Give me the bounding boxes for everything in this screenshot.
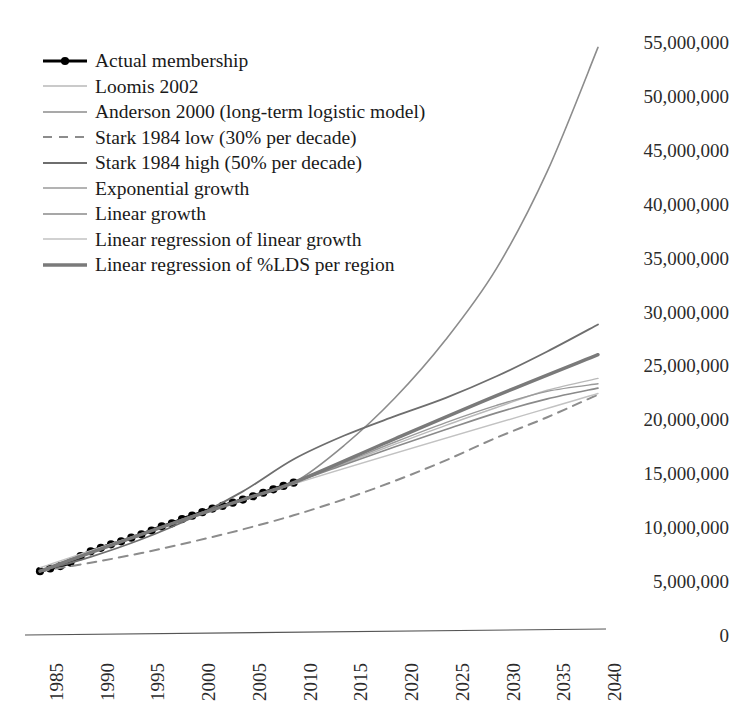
legend-item-label: Actual membership (95, 51, 248, 71)
legend-swatch-icon (42, 78, 88, 94)
y-axis-tick-label: 50,000,000 (644, 87, 730, 106)
x-axis-line (25, 629, 606, 635)
legend-item[interactable]: Stark 1984 low (30% per decade) (42, 125, 442, 151)
x-axis-tick-label: 1990 (98, 663, 117, 701)
y-axis-tick-label: 35,000,000 (644, 249, 730, 268)
x-axis-tick-label: 2005 (250, 663, 269, 701)
legend-item-label: Linear growth (95, 204, 206, 224)
y-axis-tick-label: 55,000,000 (644, 33, 730, 52)
legend-item-label: Loomis 2002 (95, 77, 198, 97)
legend-item-label: Stark 1984 low (30% per decade) (95, 128, 357, 148)
legend-item-label: Exponential growth (95, 179, 249, 199)
legend-item[interactable]: Stark 1984 high (50% per decade) (42, 150, 442, 176)
legend-swatch-icon (42, 104, 88, 120)
x-axis-tick-label: 1985 (47, 663, 66, 701)
legend-item[interactable]: Linear regression of %LDS per region (42, 252, 442, 278)
y-axis-tick-label: 10,000,000 (644, 518, 730, 537)
legend-item[interactable]: Actual membership (42, 48, 442, 74)
x-axis-tick-label: 2000 (199, 663, 218, 701)
legend-item-label: Linear regression of %LDS per region (95, 255, 394, 275)
y-axis-tick-label: 25,000,000 (644, 356, 730, 375)
x-axis-tick-label: 2025 (453, 663, 472, 701)
y-axis-tick-label: 0 (720, 626, 730, 645)
y-axis-tick-label: 15,000,000 (644, 464, 730, 483)
x-axis-tick-label: 2035 (554, 663, 573, 701)
y-axis-tick-label: 20,000,000 (644, 410, 730, 429)
y-axis-tick-label: 30,000,000 (644, 303, 730, 322)
legend-swatch-icon (42, 180, 88, 196)
legend-swatch-icon (42, 206, 88, 222)
chart-legend: Actual membershipLoomis 2002Anderson 200… (42, 48, 442, 278)
legend-swatch-icon (42, 129, 88, 145)
x-axis-tick-label: 2030 (504, 663, 523, 701)
x-axis-tick-label: 2020 (402, 663, 421, 701)
legend-swatch-icon (42, 53, 88, 69)
x-axis-tick-label: 1995 (148, 663, 167, 701)
series-line (40, 395, 598, 572)
legend-item[interactable]: Linear growth (42, 201, 442, 227)
legend-swatch-icon (42, 155, 88, 171)
legend-item[interactable]: Anderson 2000 (long-term logistic model) (42, 99, 442, 125)
y-axis-tick-label: 40,000,000 (644, 195, 730, 214)
y-axis-tick-label: 5,000,000 (653, 572, 729, 591)
legend-item[interactable]: Linear regression of linear growth (42, 227, 442, 253)
x-axis-tick-label: 2040 (605, 663, 624, 701)
legend-item[interactable]: Loomis 2002 (42, 74, 442, 100)
x-axis-tick-label: 2015 (351, 663, 370, 701)
legend-swatch-icon (42, 231, 88, 247)
x-axis-tick-label: 2010 (301, 663, 320, 701)
legend-item-label: Linear regression of linear growth (95, 230, 361, 250)
legend-swatch-icon (42, 257, 88, 273)
legend-item-label: Anderson 2000 (long-term logistic model) (95, 102, 425, 122)
chart-figure: Actual membershipLoomis 2002Anderson 200… (0, 0, 735, 719)
legend-item[interactable]: Exponential growth (42, 176, 442, 202)
y-axis-tick-label: 45,000,000 (644, 141, 730, 160)
legend-item-label: Stark 1984 high (50% per decade) (95, 153, 362, 173)
series-line (40, 324, 598, 571)
